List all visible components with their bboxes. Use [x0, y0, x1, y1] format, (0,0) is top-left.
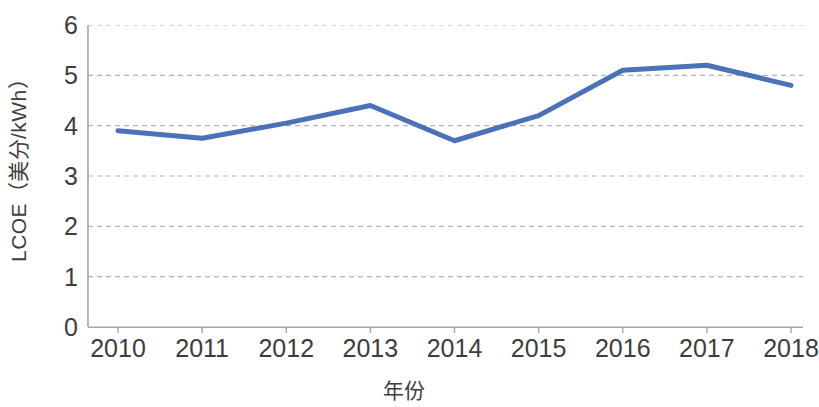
x-tick-label: 2013: [343, 336, 399, 361]
x-axis-tick-labels: 201020112012201320142015201620172018: [88, 336, 803, 372]
x-tick-label: 2011: [175, 336, 229, 361]
y-axis-title: LCOE（美分/kWh）: [0, 0, 34, 330]
x-tick-label: 2012: [258, 336, 314, 361]
x-axis-title: 年份: [0, 374, 808, 404]
y-tick-label: 3: [38, 164, 78, 189]
y-tick-label: 1: [38, 264, 78, 289]
series-line-lcoe: [118, 65, 791, 141]
plot-area: [88, 25, 803, 327]
gridlines: [88, 25, 803, 277]
y-axis-title-text: LCOE（美分/kWh）: [2, 68, 32, 262]
x-tick-label: 2015: [511, 336, 567, 361]
data-series-lcoe: [118, 65, 791, 141]
x-axis-title-text: 年份: [383, 379, 426, 402]
x-tick-label: 2018: [763, 336, 819, 361]
plot-svg: [88, 25, 803, 327]
y-tick-label: 2: [38, 214, 78, 239]
y-tick-label: 4: [38, 113, 78, 138]
x-tick-label: 2017: [679, 336, 735, 361]
y-axis-tick-labels: 0123456: [30, 0, 78, 407]
y-tick-label: 0: [38, 315, 78, 340]
y-tick-label: 5: [38, 63, 78, 88]
x-tick-label: 2014: [427, 336, 483, 361]
y-tick-label: 6: [38, 13, 78, 38]
x-tick-label: 2010: [90, 336, 146, 361]
x-axis-ticks: [118, 327, 791, 333]
x-tick-label: 2016: [595, 336, 651, 361]
